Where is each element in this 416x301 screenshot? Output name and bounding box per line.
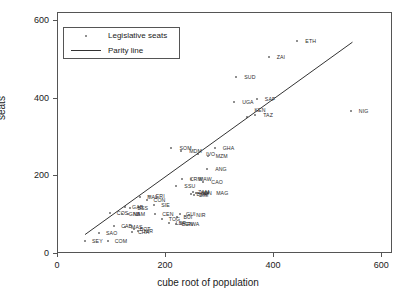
y-tick-label: 200 [0,170,49,180]
y-tick-mark [53,98,57,99]
x-tick-mark [381,253,382,257]
x-tick-label: 600 [374,260,389,270]
legend-marker-dot-icon [64,35,108,37]
y-tick-label: 0 [0,248,49,258]
legend-label-seats: Legislative seats [108,31,167,40]
legend-item-parity: Parity line [64,43,179,58]
y-tick-label: 600 [0,15,49,25]
y-tick-mark [53,175,57,176]
chart-root: ETHZAISUDSAFUGATAZKENNIGGHASOMMDMIVOMZMA… [0,0,416,301]
x-tick-label: 400 [266,260,281,270]
x-axis-label: cube root of population [0,277,416,288]
x-tick-label: 0 [54,260,59,270]
legend-marker-line-icon [64,50,108,51]
legend-label-parity: Parity line [108,46,143,55]
legend-item-seats: Legislative seats [64,28,179,43]
x-tick-mark [165,253,166,257]
x-tick-mark [273,253,274,257]
y-tick-label: 400 [0,93,49,103]
y-axis-label: seats [0,96,7,120]
chart-legend: Legislative seats Parity line [63,27,180,59]
y-tick-mark [53,20,57,21]
x-tick-mark [57,253,58,257]
x-tick-label: 200 [158,260,173,270]
